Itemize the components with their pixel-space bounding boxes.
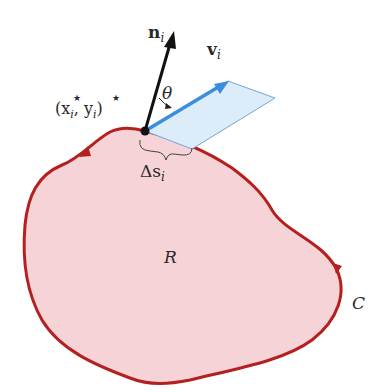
- velocity-label: vi: [206, 39, 221, 62]
- curve-label: C: [352, 293, 365, 313]
- angle-arrowhead-icon: [165, 103, 172, 109]
- angle-theta-label: θ: [162, 83, 172, 103]
- star-icon: ★: [112, 93, 120, 103]
- normal-arrowhead-icon: [164, 31, 176, 49]
- region-r: [24, 128, 341, 383]
- flux-diagram: ni vi θ (xi, yi) ★ ★ Δsi R C: [0, 0, 381, 392]
- normal-label: ni: [148, 22, 164, 45]
- star-icon: ★: [73, 93, 81, 103]
- point-xi-yi: [141, 127, 150, 136]
- region-label: R: [163, 247, 177, 267]
